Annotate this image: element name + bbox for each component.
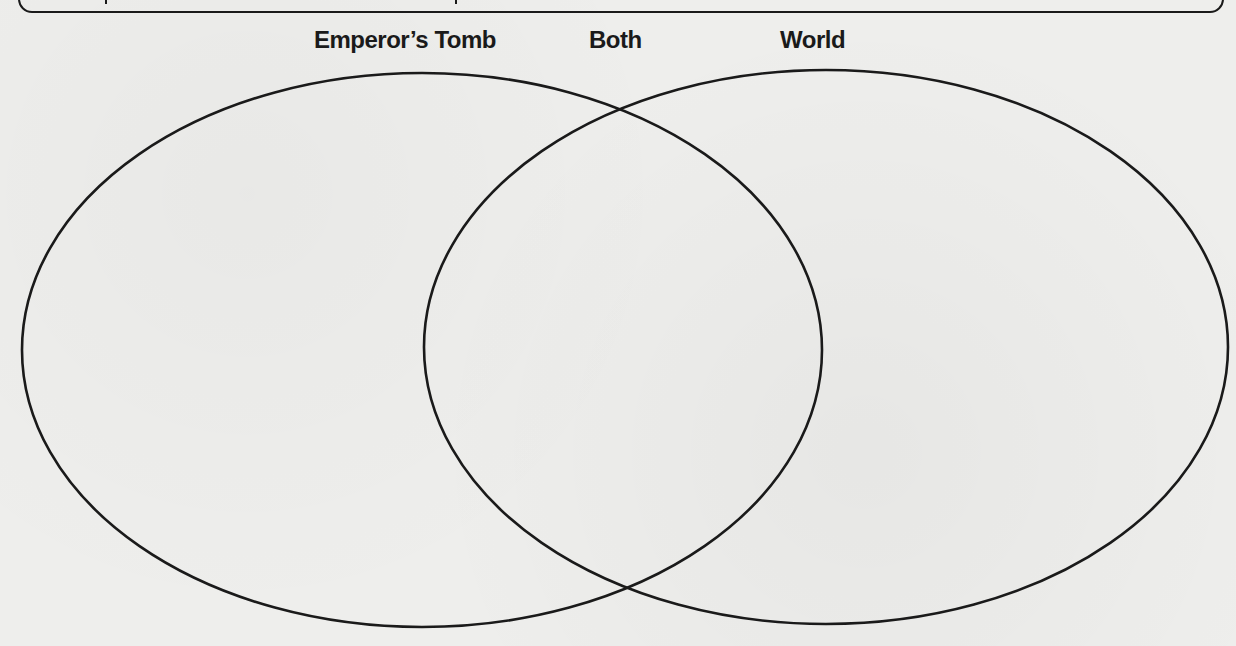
right-circle-world [424,70,1228,624]
left-circle-emperors-tomb [22,73,822,627]
venn-diagram [0,0,1236,646]
